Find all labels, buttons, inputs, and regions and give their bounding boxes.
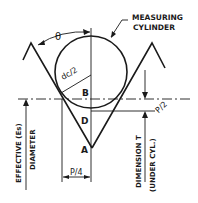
- label-half-pitch: P/2: [154, 100, 169, 115]
- label-b: B: [82, 88, 89, 98]
- arrow-head-icon: [142, 92, 148, 99]
- arrow-head-icon: [142, 111, 148, 118]
- arrow-head-icon: [63, 175, 69, 179]
- label-effective-1: EFFECTIVE (Es): [15, 123, 23, 183]
- label-theta: θ: [55, 31, 61, 42]
- label-dim-t-1: DIMENSION T: [135, 135, 143, 188]
- label-d: D: [81, 116, 88, 126]
- arrow-head-icon: [84, 175, 90, 179]
- arrow-head-icon: [38, 40, 45, 45]
- label-effective-2: DIAMETER: [29, 129, 37, 170]
- label-a: A: [81, 145, 88, 155]
- thread-profile-right: [92, 43, 165, 148]
- label-measuring: MEASURING: [132, 13, 183, 22]
- thread-diagram: MEASURING CYLINDER θ dc/2 B D A P/2 P/4 …: [0, 0, 198, 203]
- label-dim-t-2: (UNDER CYL.): [149, 138, 157, 192]
- arrow-head-icon: [111, 31, 116, 38]
- arrow-head-icon: [23, 99, 29, 106]
- label-cylinder: CYLINDER: [133, 23, 175, 32]
- label-radius: dc/2: [60, 65, 79, 81]
- arrow-head-icon: [83, 29, 90, 35]
- label-quarter-pitch: P/4: [70, 168, 83, 177]
- theta-arc: [38, 32, 90, 45]
